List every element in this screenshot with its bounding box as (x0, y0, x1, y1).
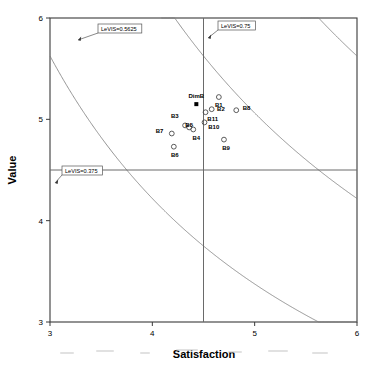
y-tick-label: 4 (39, 217, 44, 226)
x-tick-label: 5 (252, 329, 257, 338)
data-point-label-b4: B4 (193, 135, 201, 141)
data-point-label-b6: B6 (171, 152, 179, 158)
centroid-label: DimB (189, 93, 205, 99)
data-point-b9 (222, 137, 227, 142)
centroid-marker: DimB (189, 93, 205, 106)
x-tick-label: 3 (48, 329, 53, 338)
data-point-label-b8: B8 (243, 105, 251, 111)
data-point-b6 (171, 144, 176, 149)
y-tick-label: 6 (39, 14, 44, 23)
annotation-arrowhead-levis-0-5625 (78, 36, 81, 41)
data-point-b1 (216, 95, 221, 100)
data-point-label-b5: B5 (185, 122, 193, 128)
data-point-b8 (234, 108, 239, 113)
annotation-text-levis-0-5625: LeVIS=0.5625 (101, 26, 137, 32)
x-tick-label: 4 (150, 329, 155, 338)
data-point-b10 (202, 120, 207, 125)
scan-smudge-1 (96, 350, 114, 352)
centroid-square-marker (194, 102, 198, 106)
data-point-label-b7: B7 (156, 128, 164, 134)
data-point-label-b3: B3 (171, 113, 179, 119)
data-point-b7 (169, 131, 174, 136)
scan-smudge-0 (60, 352, 74, 354)
y-tick-label: 5 (39, 115, 44, 124)
axis-tick-labels: 34563456 (39, 14, 360, 338)
scan-smudge-2 (140, 352, 150, 354)
annotation-leader-levis-0-5625 (78, 33, 98, 40)
scan-smudge-5 (268, 350, 288, 352)
annotation-arrowhead-levis-0-375 (55, 179, 58, 184)
plot-svg: 34563456 B1B2B3B4B5B6B7B8B9B10B11 DimB L… (0, 0, 377, 367)
data-point-label-b10: B10 (208, 124, 220, 130)
scan-smudge-3 (176, 349, 198, 351)
curve-annotations: LeVIS=0.5625LeVIS=0.75LeVIS=0.375 (55, 21, 256, 184)
data-points (169, 95, 238, 149)
data-point-b2 (209, 107, 214, 112)
data-point-label-b11: B11 (207, 116, 218, 122)
data-point-label-b9: B9 (222, 145, 230, 151)
annotation-text-levis-0-375: LeVIS=0.375 (65, 168, 98, 174)
iso-curve-levis-0-75 (300, 18, 357, 56)
annotation-leader-levis-0-375 (55, 175, 62, 183)
annotation-text-levis-0-75: LeVIS=0.75 (221, 23, 250, 29)
scatter-chart: 34563456 B1B2B3B4B5B6B7B8B9B10B11 DimB L… (0, 0, 377, 367)
x-tick-label: 6 (355, 329, 360, 338)
y-axis-title: Value (6, 156, 18, 185)
annotation-arrowhead-levis-0-75 (208, 34, 211, 39)
scan-smudge-4 (228, 351, 242, 353)
iso-curve-levis-0-5625 (161, 18, 357, 199)
y-tick-label: 3 (39, 318, 44, 327)
scan-smudge-6 (312, 352, 328, 354)
data-point-label-b2: B2 (217, 106, 225, 112)
